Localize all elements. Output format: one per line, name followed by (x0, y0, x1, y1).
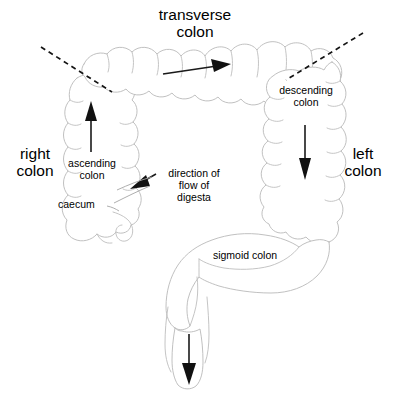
label-sigmoid-colon: sigmoid colon (193, 250, 297, 262)
label-direction-of-flow-of-digesta: direction of flow of digesta (155, 168, 233, 203)
label-descending-colon: descending colon (268, 85, 344, 109)
label-ascending-colon: ascending colon (56, 158, 128, 182)
colon-diagram: transverse colon right colon left colon … (0, 0, 394, 401)
rectum-inner-line-right (205, 297, 209, 363)
label-left-colon: left colon (333, 145, 393, 180)
label-caecum: caecum (58, 199, 112, 211)
label-transverse-colon: transverse colon (131, 6, 259, 41)
